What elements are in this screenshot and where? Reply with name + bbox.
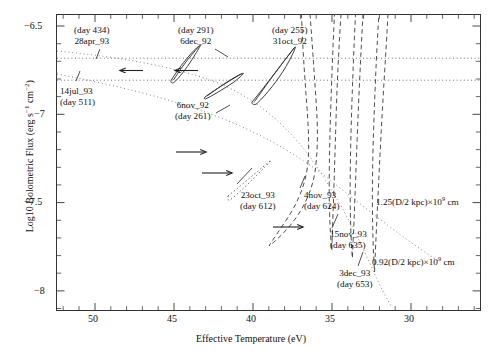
annotation-day-612-line2: (day 612) (240, 201, 275, 212)
annotation-day-511: 14jul_93 (day 511) (60, 86, 95, 108)
xtick-label-45: 45 (167, 313, 177, 324)
loop-track-3dec93 (372, 14, 388, 272)
annotation-day-635: 15nov_93 (day 635) (330, 229, 367, 251)
annotation-radius-0-92: 0.92(D/2 kpc)×109 cm (372, 253, 455, 268)
annotation-day-653: 3dec_93 (day 653) (337, 268, 372, 290)
annotation-day-624: 4nov_93 (day 624) (304, 190, 339, 212)
annotation-day-653-line1: 3dec_93 (337, 268, 372, 279)
annotation-day-653-line2: (day 653) (337, 279, 372, 290)
annotation-day-511-line2: (day 511) (60, 97, 95, 108)
xtick-label-40: 40 (246, 313, 256, 324)
xtick-label-35: 35 (325, 313, 335, 324)
radius-0-92-prefix: 0.92(D/2 kpc)×10 (372, 257, 438, 267)
annotation-day-624-line2: (day 624) (304, 201, 339, 212)
annotation-day-291: (day 291) 6dec_92 (178, 25, 213, 47)
direction-arrows (120, 71, 303, 228)
loop-track-6nov92 (204, 73, 243, 99)
loop-track-15nov93 (350, 14, 363, 258)
ytick-label-minus7: −7 (34, 108, 45, 119)
loop-track-6dec92 (171, 45, 201, 83)
ytick-label-minus8: −8 (34, 285, 45, 296)
annotation-day-511-line1: 14jul_93 (60, 86, 95, 97)
x-axis-title: Effective Temperature (eV) (196, 333, 306, 344)
y-axis-title-text: Log10 Bolometric Flux (erg s−1 cm−2) (24, 80, 35, 232)
horizontal-dotted-reference-lines (57, 58, 480, 80)
annotation-day-261: 6nov_92 (day 261) (175, 100, 210, 122)
annotation-day-612: 23oct_93 (day 612) (240, 190, 275, 212)
loop-track-4nov93b (329, 14, 341, 250)
xtick-label-30: 30 (404, 313, 414, 324)
annotation-radius-1-25: 1.25(D/2 kpc)×109 cm (376, 193, 459, 208)
annotation-leader-lines (76, 49, 363, 266)
annotation-day-624-line1: 4nov_93 (304, 190, 339, 201)
annotation-day-255: (day 255) 31oct_92 (272, 25, 307, 47)
annotation-day-291-line2: 6dec_92 (178, 36, 213, 47)
annotation-day-635-line2: (day 635) (330, 240, 367, 251)
ytick-label-minus6-5: −6.5 (24, 20, 42, 31)
plot-canvas (0, 0, 497, 360)
annotation-day-434-line2: 28apr_93 (74, 36, 109, 47)
xtick-label-50: 50 (88, 313, 98, 324)
radius-0-92-suffix: cm (441, 257, 455, 267)
y-axis-title: Log10 Bolometric Flux (erg s−1 cm−2) (23, 61, 35, 251)
annotation-day-261-line1: 6nov_92 (175, 100, 210, 111)
bolometric-flux-vs-temperature-figure: 50 45 40 35 30 −6.5 −7 −7.5 −8 Effective… (0, 0, 497, 360)
annotation-day-612-line1: 23oct_93 (240, 190, 275, 201)
radius-1-25-prefix: 1.25(D/2 kpc)×10 (376, 197, 442, 207)
annotation-day-291-line1: (day 291) (178, 25, 213, 36)
annotation-day-434-line1: (day 434) (74, 25, 109, 36)
annotation-day-635-line1: 15nov_93 (330, 229, 367, 240)
annotation-day-255-line1: (day 255) (272, 25, 307, 36)
loop-track-31oct92 (252, 47, 296, 105)
radius-1-25-suffix: cm (445, 197, 459, 207)
annotation-day-255-line2: 31oct_92 (272, 36, 307, 47)
annotation-day-261-line2: (day 261) (175, 111, 210, 122)
annotation-day-434: (day 434) 28apr_93 (74, 25, 109, 47)
